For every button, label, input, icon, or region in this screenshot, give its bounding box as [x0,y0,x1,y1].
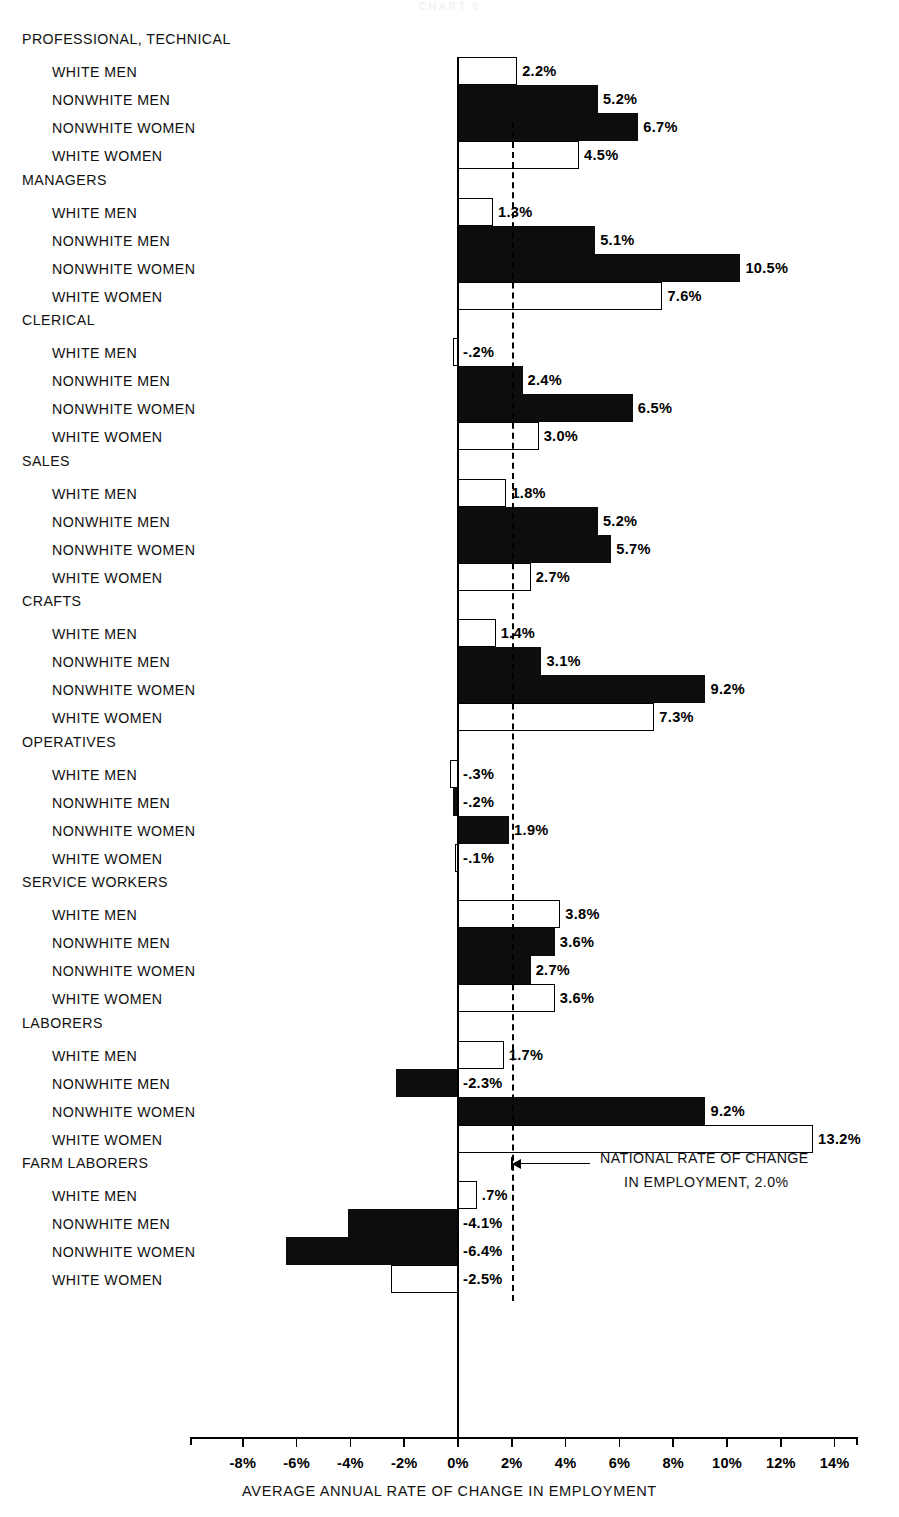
bar-value-label: -4.1% [463,1216,503,1231]
national-rate-arrow [513,1163,590,1165]
bar-value-label: 2.4% [528,373,562,388]
x-axis-tick [726,1437,728,1447]
x-axis-tick-label: -8% [213,1455,273,1471]
bar [458,1041,504,1069]
bar-value-label: 1.7% [509,1048,543,1063]
x-axis-tick [619,1437,621,1447]
national-rate-dashed-line [512,122,514,1301]
bar-value-label: 7.6% [667,289,701,304]
x-axis-tick [242,1437,244,1447]
bar-value-label: -.2% [463,795,494,810]
bar [458,479,506,507]
bar [458,816,509,844]
x-axis-tick-label: 10% [697,1455,757,1471]
x-axis-tick [565,1437,567,1447]
x-axis-tick [511,1437,513,1447]
bar [458,956,531,984]
bar [458,900,560,928]
bar-value-label: -.3% [463,767,494,782]
bar-value-label: 3.6% [560,991,594,1006]
bar-value-label: 6.5% [638,401,672,416]
bar [458,1097,705,1125]
bar [458,1181,477,1209]
bar [391,1265,458,1293]
bar [458,507,598,535]
bar [396,1069,458,1097]
bar [458,226,595,254]
bar-value-label: 7.3% [659,710,693,725]
bar-value-label: 5.2% [603,514,637,529]
x-axis-tick [672,1437,674,1447]
x-axis-tick-label: 12% [751,1455,811,1471]
bar-value-label: -2.5% [463,1272,503,1287]
x-axis-title: AVERAGE ANNUAL RATE OF CHANGE IN EMPLOYM… [0,1483,899,1499]
x-axis-tick-label: -4% [320,1455,380,1471]
bar-value-label: 3.8% [565,907,599,922]
bar [458,57,517,85]
bar [458,141,579,169]
bar [458,563,531,591]
bar [458,647,541,675]
x-axis-tick-label: 0% [428,1455,488,1471]
bar-value-label: -.2% [463,345,494,360]
x-axis-tick-label: 6% [589,1455,649,1471]
x-axis-tick [296,1437,298,1447]
bar-value-label: 3.0% [544,429,578,444]
bar-value-label: 3.1% [546,654,580,669]
bar-value-label: 9.2% [710,682,744,697]
bar-value-label: 1.8% [511,486,545,501]
bar-value-label: 4.5% [584,148,618,163]
bar [458,535,611,563]
bar-value-label: 5.1% [600,233,634,248]
x-axis-tick-label: -2% [374,1455,434,1471]
bar [458,198,493,226]
x-axis-tick-label: 14% [805,1455,865,1471]
bar-value-label: -.1% [463,851,494,866]
bar [458,254,740,282]
x-axis-line [190,1437,856,1439]
bar [286,1237,458,1265]
bar-value-label: 2.7% [536,570,570,585]
x-axis-tick-label: 4% [536,1455,596,1471]
bar-value-label: 5.2% [603,92,637,107]
bar [458,282,662,310]
bar-value-label: -2.3% [463,1076,503,1091]
x-axis-tick [834,1437,836,1447]
bar-value-label: 13.2% [818,1132,861,1147]
bar [458,928,555,956]
bar-value-label: -6.4% [463,1244,503,1259]
bar [458,422,539,450]
national-rate-annotation-line1: NATIONAL RATE OF CHANGE [600,1150,809,1166]
x-axis-tick [457,1437,459,1447]
bar-value-label: 1.3% [498,205,532,220]
bar-value-label: 6.7% [643,120,677,135]
x-axis-tick-label: 8% [643,1455,703,1471]
x-axis-tick [350,1437,352,1447]
x-axis-tick-label: -6% [267,1455,327,1471]
bar [348,1209,458,1237]
bar-value-label: 2.2% [522,64,556,79]
bar-value-label: 10.5% [745,261,788,276]
bar [458,113,638,141]
bar-value-label: 9.2% [710,1104,744,1119]
zero-reference-axis [457,57,459,1437]
bar-value-label: .7% [482,1188,508,1203]
plot-area: 2.2%5.2%6.7%4.5%1.3%5.1%10.5%7.6%-.2%2.4… [0,0,899,1440]
x-axis-tick [403,1437,405,1447]
x-axis-tick [780,1437,782,1447]
bar-value-label: 1.4% [501,626,535,641]
employment-change-bar-chart: CHART 8 PROFESSIONAL, TECHNICALWHITE MEN… [0,0,899,1517]
bar-value-label: 1.9% [514,823,548,838]
bar [458,984,555,1012]
national-rate-annotation-line2: IN EMPLOYMENT, 2.0% [624,1174,789,1190]
bar-value-label: 2.7% [536,963,570,978]
x-axis-tick-label: 2% [482,1455,542,1471]
bar [458,619,496,647]
bar [458,394,633,422]
bar [458,675,705,703]
bar-value-label: 3.6% [560,935,594,950]
x-axis-left-cap [190,1437,192,1445]
bar [458,703,654,731]
bar [458,85,598,113]
x-axis-right-cap [856,1437,858,1445]
